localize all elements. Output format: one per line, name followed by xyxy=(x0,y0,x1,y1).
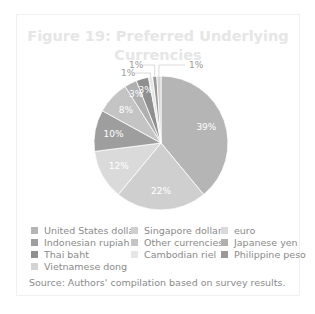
legend-swatch xyxy=(31,227,38,234)
legend-label: Indonesian rupiah xyxy=(44,237,129,248)
slice-label: 39% xyxy=(196,122,216,132)
legend-label: Japanese yen xyxy=(234,237,298,248)
legend-label: Other currencies xyxy=(144,237,223,248)
legend-swatch xyxy=(31,239,38,246)
legend-item: Japanese yen xyxy=(221,237,301,248)
legend-item: euro xyxy=(221,225,301,236)
legend-swatch xyxy=(221,227,228,234)
slice-label: 3% xyxy=(139,85,154,95)
legend-item: Vietnamese dong xyxy=(31,261,131,272)
slice-label: 8% xyxy=(119,105,134,115)
chart-legend: United States dollarSingapore dollareuro… xyxy=(31,225,301,272)
legend-item: Philippine peso xyxy=(221,249,301,260)
legend-swatch xyxy=(221,251,228,258)
legend-item: Indonesian rupiah xyxy=(31,237,131,248)
legend-label: Vietnamese dong xyxy=(44,261,127,272)
legend-item: Other currencies xyxy=(131,237,221,248)
legend-swatch xyxy=(131,239,138,246)
slice-label: 22% xyxy=(151,186,171,196)
slice-label: 1% xyxy=(189,60,204,70)
legend-item: Thai baht xyxy=(31,249,131,260)
legend-label: euro xyxy=(234,225,255,236)
figure-card: Figure 19: Preferred Underlying Currenci… xyxy=(16,14,300,296)
legend-label: Cambodian riel xyxy=(144,249,216,260)
legend-label: Thai baht xyxy=(44,249,89,260)
legend-label: United States dollar xyxy=(44,225,138,236)
leader-line xyxy=(135,73,151,77)
slice-label: 12% xyxy=(109,161,129,171)
legend-label: Philippine peso xyxy=(234,249,306,260)
leader-line xyxy=(143,65,155,76)
pie-chart: 39%22%12%10%8%3%3%1%1%1% xyxy=(17,15,301,225)
legend-swatch xyxy=(131,227,138,234)
legend-swatch xyxy=(221,239,228,246)
slice-label: 1% xyxy=(129,60,144,70)
legend-label: Singapore dollar xyxy=(144,225,222,236)
slice-label: 10% xyxy=(104,129,124,139)
legend-item: United States dollar xyxy=(31,225,131,236)
legend-swatch xyxy=(31,263,38,270)
leader-line xyxy=(159,65,185,76)
legend-swatch xyxy=(131,251,138,258)
source-note: Source: Authors' compilation based on su… xyxy=(29,277,285,288)
legend-item: Singapore dollar xyxy=(131,225,221,236)
legend-swatch xyxy=(31,251,38,258)
legend-item: Cambodian riel xyxy=(131,249,221,260)
